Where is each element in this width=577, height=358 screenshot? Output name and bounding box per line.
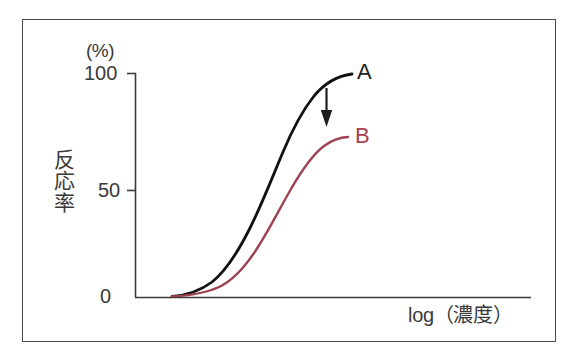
down-arrow-icon: [321, 88, 332, 127]
y-axis-unit-label: (%): [86, 41, 114, 60]
y-tick-label-0: 0: [100, 286, 111, 306]
y-tick-label-100: 100: [84, 63, 117, 83]
curve-b-label: B: [355, 125, 370, 147]
y-tick-label-50: 50: [98, 180, 120, 200]
curve-a-label: A: [357, 61, 372, 83]
x-axis-title: log（濃度）: [408, 305, 513, 325]
curve-b-path: [172, 137, 348, 297]
figure-root: (%) 100 50 0 反応率 log（濃度） A B: [0, 0, 577, 358]
curve-a-path: [172, 74, 352, 297]
y-axis-title: 反応率: [52, 150, 76, 214]
